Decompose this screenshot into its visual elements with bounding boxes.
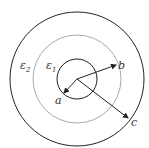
label-epsilon-2: ε2 xyxy=(20,59,31,74)
radius-a-arrow xyxy=(64,79,77,93)
label-b: b xyxy=(118,59,125,72)
label-c: c xyxy=(131,116,137,129)
label-a: a xyxy=(55,94,62,107)
label-epsilon-1: ε1 xyxy=(46,59,56,74)
concentric-circles-diagram: ε2 ε1 a b c xyxy=(0,0,149,148)
